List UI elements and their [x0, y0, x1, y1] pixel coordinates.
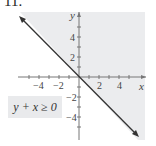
y-tick-label: −4: [66, 112, 77, 123]
y-tick-label: −2: [66, 92, 77, 103]
x-tick-label: −2: [53, 80, 64, 91]
y-tick-label: 2: [70, 52, 75, 63]
x-tick-label: 2: [97, 80, 102, 91]
y-tick-label: 4: [70, 32, 75, 43]
x-axis-label: x: [138, 80, 144, 92]
x-tick-label: −4: [33, 80, 44, 91]
x-tick-label: 4: [117, 80, 122, 91]
inequality-label: y + x ≥ 0: [8, 96, 62, 118]
inequality-graph: −4 −2 2 4 x 4 2 −2 −4 y: [0, 0, 156, 146]
y-axis-label: y: [69, 9, 75, 21]
